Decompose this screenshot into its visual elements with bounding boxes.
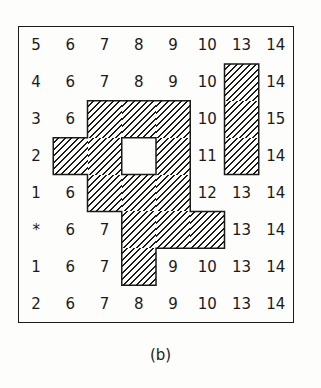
- hatched-cell: [122, 248, 156, 285]
- value-cell: 7: [88, 27, 122, 64]
- hatched-cell: [122, 101, 156, 138]
- hatched-cell: [190, 211, 224, 248]
- value-cell: 6: [53, 285, 87, 322]
- value-cell: 6: [53, 211, 87, 248]
- value-cell: 2: [19, 285, 53, 322]
- hatched-cell: [156, 211, 190, 248]
- hatched-cell: [88, 175, 122, 212]
- value-cell: 13: [225, 175, 259, 212]
- value-cell: 12: [190, 175, 224, 212]
- value-cell: 7: [88, 248, 122, 285]
- value-cell: 15: [259, 101, 293, 138]
- value-cell: 13: [225, 211, 259, 248]
- grid-frame: 567891013144678910143610152111416121314*…: [18, 26, 294, 323]
- value-cell: 6: [53, 101, 87, 138]
- value-cell: 6: [53, 175, 87, 212]
- value-cell: 4: [19, 64, 53, 101]
- hole-cell: [122, 138, 156, 175]
- hatched-cell: [122, 175, 156, 212]
- value-cell: 7: [88, 211, 122, 248]
- value-cell: 13: [225, 285, 259, 322]
- value-cell: 10: [190, 27, 224, 64]
- value-cell: 7: [88, 285, 122, 322]
- value-cell: 6: [53, 248, 87, 285]
- hatched-cell: [122, 211, 156, 248]
- value-cell: 13: [225, 248, 259, 285]
- value-cell: 8: [122, 27, 156, 64]
- value-cell: 14: [259, 248, 293, 285]
- value-cell: 10: [190, 248, 224, 285]
- value-cell: 14: [259, 64, 293, 101]
- value-cell: 9: [156, 27, 190, 64]
- value-cell: 13: [225, 27, 259, 64]
- value-cell: 14: [259, 211, 293, 248]
- hatched-cell: [225, 138, 259, 175]
- value-cell: 2: [19, 138, 53, 175]
- value-cell: 14: [259, 27, 293, 64]
- value-grid: 567891013144678910143610152111416121314*…: [19, 27, 293, 322]
- value-cell: 8: [122, 285, 156, 322]
- value-cell: 9: [156, 248, 190, 285]
- value-cell: 6: [53, 64, 87, 101]
- value-cell: 9: [156, 64, 190, 101]
- hatched-cell: [156, 101, 190, 138]
- hatched-cell: [156, 138, 190, 175]
- value-cell: 14: [259, 285, 293, 322]
- value-cell: 11: [190, 138, 224, 175]
- hatched-cell: [88, 101, 122, 138]
- value-cell: 3: [19, 101, 53, 138]
- start-marker-cell: *: [19, 211, 53, 248]
- value-cell: 8: [122, 64, 156, 101]
- hatched-cell: [53, 138, 87, 175]
- hatched-cell: [225, 101, 259, 138]
- value-cell: 14: [259, 138, 293, 175]
- value-cell: 7: [88, 64, 122, 101]
- value-cell: 9: [156, 285, 190, 322]
- hatched-cell: [225, 64, 259, 101]
- hatched-cell: [88, 138, 122, 175]
- value-cell: 14: [259, 175, 293, 212]
- value-cell: 10: [190, 101, 224, 138]
- value-cell: 1: [19, 175, 53, 212]
- hatched-cell: [156, 175, 190, 212]
- value-cell: 6: [53, 27, 87, 64]
- value-cell: 10: [190, 285, 224, 322]
- figure-caption: (b): [0, 346, 321, 364]
- value-cell: 1: [19, 248, 53, 285]
- value-cell: 5: [19, 27, 53, 64]
- value-cell: 10: [190, 64, 224, 101]
